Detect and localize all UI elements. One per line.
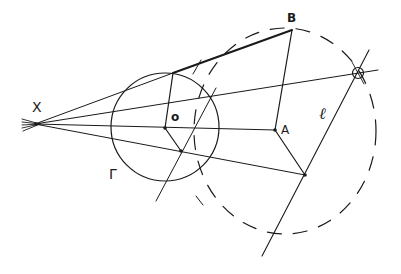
point-q xyxy=(303,173,307,177)
segment-t-b xyxy=(173,30,292,73)
segment-a-q xyxy=(275,130,305,175)
label-ell: ℓ xyxy=(319,104,326,123)
point-p xyxy=(179,149,183,153)
geometry-diagram: X B A o Γ ℓ xyxy=(0,0,401,274)
segment-b-a xyxy=(275,30,292,130)
segment-o-p xyxy=(165,128,181,151)
line-through-gamma xyxy=(156,88,216,201)
label-o: o xyxy=(171,110,179,124)
tick-mark xyxy=(193,60,201,74)
line-x-to-b xyxy=(35,73,173,124)
point-a xyxy=(273,128,277,132)
tick-mark-lower xyxy=(196,196,203,205)
line-x-to-r xyxy=(35,70,378,124)
label-a: A xyxy=(281,123,290,137)
label-x: X xyxy=(32,99,42,115)
diagram-canvas: X B A o Γ ℓ xyxy=(0,0,401,274)
point-x xyxy=(34,122,38,126)
label-gamma: Γ xyxy=(109,166,117,182)
label-b: B xyxy=(287,11,296,25)
line-x-to-q xyxy=(35,124,305,175)
point-o xyxy=(163,126,167,130)
line-ell xyxy=(262,50,369,256)
line-x-to-a xyxy=(35,124,275,130)
